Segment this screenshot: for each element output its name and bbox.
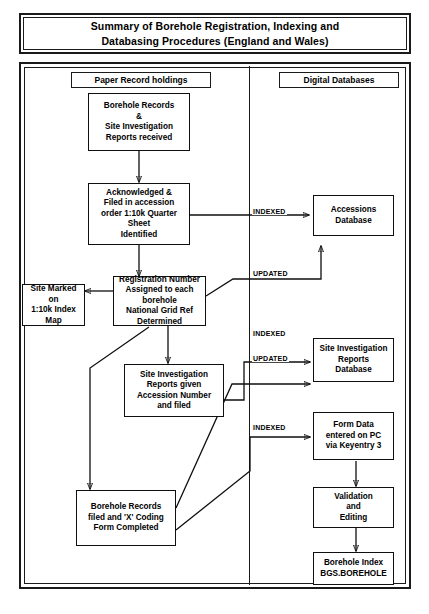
node-borehole-records-filed-label: Borehole Records filed and 'X' Coding Fo…: [79, 502, 173, 534]
edge-label-indexed-si-reports: INDEXED: [252, 330, 287, 337]
node-validation-editing-label: Validation and Editing: [316, 492, 391, 524]
edge-label-indexed-accessions: INDEXED: [252, 208, 287, 215]
node-site-marked-map[interactable]: Site Marked on 1:10k Index Map: [22, 284, 85, 326]
node-acknowledged-filed[interactable]: Acknowledged & Filed in accession order …: [88, 183, 190, 245]
node-borehole-index-label: Borehole Index BGS.BOREHOLE: [316, 558, 391, 579]
node-site-marked-map-label: Site Marked on 1:10k Index Map: [25, 284, 82, 326]
node-si-reports-database-label: Site Investigation Reports Database: [316, 344, 391, 376]
node-form-data-entered[interactable]: Form Data entered on PC via Keyentry 3: [313, 412, 394, 460]
edge-si-reports-to-si-database-updated: [224, 362, 310, 400]
node-accessions-database[interactable]: Accessions Database: [313, 195, 394, 236]
node-borehole-index[interactable]: Borehole Index BGS.BOREHOLE: [313, 552, 394, 585]
node-form-data-entered-label: Form Data entered on PC via Keyentry 3: [316, 420, 391, 452]
node-borehole-records-filed[interactable]: Borehole Records filed and 'X' Coding Fo…: [76, 490, 176, 546]
flowchart-canvas: Summary of Borehole Registration, Indexi…: [0, 0, 429, 614]
node-borehole-records-received[interactable]: Borehole Records & Site Investigation Re…: [88, 93, 190, 151]
node-validation-editing[interactable]: Validation and Editing: [313, 487, 394, 528]
node-acknowledged-filed-label: Acknowledged & Filed in accession order …: [91, 188, 187, 241]
node-registration-number-label: Registration Number Assigned to each bor…: [116, 275, 203, 328]
node-si-reports-accession[interactable]: Site Investigation Reports given Accessi…: [124, 364, 224, 417]
node-borehole-records-received-label: Borehole Records & Site Investigation Re…: [91, 101, 187, 143]
edge-label-indexed-form-data: INDEXED: [252, 424, 287, 431]
node-si-reports-database[interactable]: Site Investigation Reports Database: [313, 338, 394, 382]
node-accessions-database-label: Accessions Database: [316, 205, 391, 226]
node-si-reports-accession-label: Site Investigation Reports given Accessi…: [127, 370, 221, 412]
edge-label-updated-accessions: UPDATED: [252, 270, 289, 277]
edge-label-updated-si-reports: UPDATED: [252, 355, 289, 362]
edge-borehole-filed-to-form-data-indexed: [176, 437, 310, 530]
node-registration-number[interactable]: Registration Number Assigned to each bor…: [113, 276, 206, 326]
